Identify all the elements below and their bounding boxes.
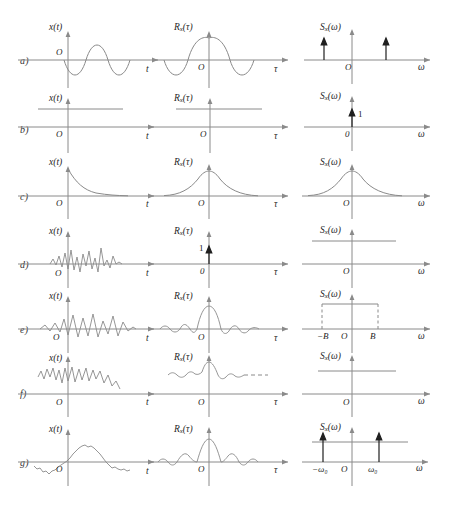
impulse-value-label: 1 <box>358 109 363 119</box>
panel-b-spectrum: Sx(ω) 0 1 ω <box>296 91 446 159</box>
origin-label: O <box>198 332 205 342</box>
panel-f-autocorrelation: Rx(τ) O τ <box>152 355 302 423</box>
tick-label-omega0: ω₀ <box>368 464 377 474</box>
signal-theory-figure: a) x(t) O t Rx(τ) O τ <box>0 0 456 509</box>
origin-label: O <box>53 332 60 342</box>
origin-label: O <box>345 62 352 72</box>
figure-row-g: g) x(t) O t Rx(τ) O τ <box>0 424 456 492</box>
figure-row-e: e) x(t) O t Rx(τ) O τ <box>0 291 456 359</box>
origin-label: O <box>56 47 63 57</box>
panel-c-signal: x(t) O t <box>18 157 168 225</box>
axis-label-y: Rx(τ) <box>174 291 193 301</box>
axis-label-y: Sx(ω) <box>320 289 341 299</box>
panel-a-spectrum: Sx(ω) O ω <box>296 22 446 90</box>
tick-label-b: B <box>370 331 376 341</box>
axis-label-x: τ <box>274 465 277 475</box>
origin-label: O <box>56 397 63 407</box>
axis-label-y: x(t) <box>49 424 62 434</box>
axis-label-x: t <box>146 131 149 141</box>
axis-label-x: τ <box>274 64 277 74</box>
axis-label-x: ω <box>418 198 425 208</box>
panel-g-autocorrelation: Rx(τ) O τ <box>152 424 302 492</box>
axis-label-x: ω <box>416 463 423 473</box>
origin-label: O <box>198 397 205 407</box>
axis-label-x: t <box>146 268 149 278</box>
panel-d-signal: x(t) O t <box>18 226 168 294</box>
origin-label: O <box>55 268 62 278</box>
panel-e-signal: x(t) O t <box>18 291 168 359</box>
axis-label-x: t <box>146 64 149 74</box>
axis-label-y: x(t) <box>49 226 62 236</box>
axis-label-y: x(t) <box>49 93 62 103</box>
axis-label-y: Rx(τ) <box>174 93 193 103</box>
axis-label-y: x(t) <box>49 157 62 167</box>
axis-label-y: Sx(ω) <box>320 91 341 101</box>
axis-label-x: ω <box>418 266 425 276</box>
origin-label: O <box>343 266 350 276</box>
tick-label-minus-b: −B <box>317 331 329 341</box>
axis-label-y: Sx(ω) <box>320 22 341 32</box>
panel-a-signal: x(t) O t <box>18 22 168 90</box>
origin-label: O <box>200 129 207 139</box>
figure-row-c: c) x(t) O t Rx(τ) O τ <box>0 157 456 225</box>
impulse-value-label: 1 <box>199 243 204 253</box>
origin-label: O <box>56 198 63 208</box>
axis-label-x: ω <box>418 62 425 72</box>
origin-label: O <box>198 464 205 474</box>
origin-label: O <box>56 129 63 139</box>
panel-a-autocorrelation: Rx(τ) O τ <box>152 22 302 90</box>
axis-label-y: Sx(ω) <box>320 351 341 361</box>
panel-f-signal: x(t) O t <box>18 355 168 423</box>
axis-label-y: Sx(ω) <box>320 157 341 167</box>
panel-b-signal: x(t) O t <box>18 91 168 159</box>
figure-row-f: f) x(t) O t Rx(τ) O τ <box>0 355 456 423</box>
axis-label-y: Rx(τ) <box>174 22 193 32</box>
figure-row-d: d) x(t) O t Rx(τ) 0 1 τ <box>0 226 456 294</box>
axis-label-x: ω <box>418 331 425 341</box>
origin-label: O <box>343 198 350 208</box>
axis-label-x: t <box>146 333 149 343</box>
panel-b-autocorrelation: Rx(τ) O τ <box>152 91 302 159</box>
axis-label-y: Rx(τ) <box>174 352 193 362</box>
axis-label-x: t <box>146 397 149 407</box>
origin-label: O <box>341 464 348 474</box>
origin-label: 0 <box>345 129 350 139</box>
origin-label: O <box>341 331 348 341</box>
panel-e-spectrum: Sx(ω) −B O B ω <box>296 291 446 359</box>
axis-label-x: τ <box>274 131 277 141</box>
axis-label-x: τ <box>274 199 277 209</box>
panel-f-spectrum: Sx(ω) O ω <box>296 355 446 423</box>
panel-d-autocorrelation: Rx(τ) 0 1 τ <box>152 226 302 294</box>
axis-label-x: ω <box>418 129 425 139</box>
axis-label-x: ω <box>418 396 425 406</box>
panel-d-spectrum: Sx(ω) O ω <box>296 226 446 294</box>
origin-label: 0 <box>200 266 205 276</box>
axis-label-y: x(t) <box>49 22 62 32</box>
axis-label-y: Rx(τ) <box>174 157 193 167</box>
origin-label: O <box>198 62 205 72</box>
axis-label-x: τ <box>274 267 277 277</box>
axis-label-x: τ <box>274 397 277 407</box>
axis-label-y: Sx(ω) <box>320 225 341 235</box>
panel-c-autocorrelation: Rx(τ) O τ <box>152 157 302 225</box>
axis-label-y: x(t) <box>49 291 62 301</box>
tick-label-minus-omega0: −ω₀ <box>312 464 328 474</box>
axis-label-y: Sx(ω) <box>320 422 341 432</box>
axis-label-y: Rx(τ) <box>174 424 193 434</box>
origin-label: O <box>56 464 63 474</box>
panel-g-spectrum: Sx(ω) −ω₀ O ω₀ ω <box>296 424 446 492</box>
panel-g-signal: x(t) O t <box>18 424 168 492</box>
origin-label: O <box>198 198 205 208</box>
axis-label-x: τ <box>274 333 277 343</box>
axis-label-x: t <box>146 466 149 476</box>
axis-label-y: x(t) <box>49 353 62 363</box>
panel-e-autocorrelation: Rx(τ) O τ <box>152 291 302 359</box>
axis-label-x: t <box>146 199 149 209</box>
figure-row-a: a) x(t) O t Rx(τ) O τ <box>0 22 456 90</box>
origin-label: O <box>343 397 350 407</box>
axis-label-y: Rx(τ) <box>174 226 193 236</box>
figure-row-b: b) x(t) O t Rx(τ) O τ <box>0 91 456 159</box>
panel-c-spectrum: Sx(ω) O ω <box>296 157 446 225</box>
